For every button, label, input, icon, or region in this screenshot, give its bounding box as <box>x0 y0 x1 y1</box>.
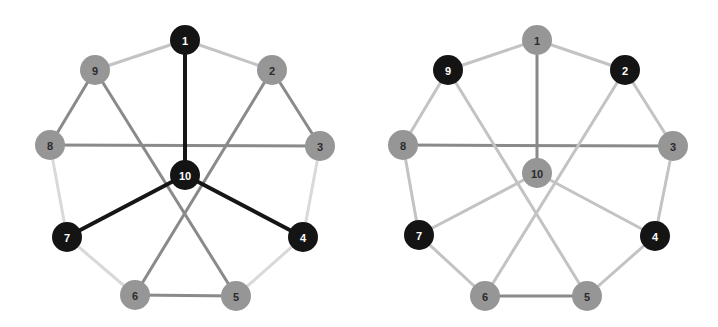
left-graph-panel: 12345678910 <box>0 0 359 327</box>
node-circle-10[interactable] <box>170 160 200 190</box>
graph-node-2[interactable]: 2 <box>257 55 287 85</box>
node-circle-2[interactable] <box>610 55 640 85</box>
graph-node-10[interactable]: 10 <box>170 160 200 190</box>
right-graph-canvas: 12345678910 <box>359 0 718 327</box>
node-circle-9[interactable] <box>433 55 463 85</box>
node-circle-5[interactable] <box>572 281 602 311</box>
node-circle-6[interactable] <box>120 280 150 310</box>
graph-node-8[interactable]: 8 <box>388 130 418 160</box>
right-graph-panel: 12345678910 <box>359 0 718 327</box>
graph-edge-10-7 <box>419 173 537 235</box>
graph-node-9[interactable]: 9 <box>80 55 110 85</box>
graph-node-4[interactable]: 4 <box>288 222 318 252</box>
graph-node-5[interactable]: 5 <box>221 281 251 311</box>
node-circle-5[interactable] <box>221 281 251 311</box>
graph-node-5[interactable]: 5 <box>572 281 602 311</box>
graph-node-4[interactable]: 4 <box>640 221 670 251</box>
node-circle-8[interactable] <box>388 130 418 160</box>
node-circle-1[interactable] <box>170 25 200 55</box>
node-circle-4[interactable] <box>640 221 670 251</box>
graph-edge-10-4 <box>185 175 303 237</box>
node-circle-9[interactable] <box>80 55 110 85</box>
node-circle-6[interactable] <box>470 281 500 311</box>
node-circle-7[interactable] <box>52 222 82 252</box>
graph-node-7[interactable]: 7 <box>52 222 82 252</box>
node-circle-10[interactable] <box>522 158 552 188</box>
graph-figure: 12345678910 12345678910 <box>0 0 718 327</box>
graph-node-10[interactable]: 10 <box>522 158 552 188</box>
graph-node-3[interactable]: 3 <box>658 131 688 161</box>
graph-node-1[interactable]: 1 <box>170 25 200 55</box>
node-circle-1[interactable] <box>522 25 552 55</box>
node-circle-7[interactable] <box>404 220 434 250</box>
graph-node-6[interactable]: 6 <box>120 280 150 310</box>
node-circle-2[interactable] <box>257 55 287 85</box>
node-circle-3[interactable] <box>658 131 688 161</box>
graph-node-2[interactable]: 2 <box>610 55 640 85</box>
graph-node-6[interactable]: 6 <box>470 281 500 311</box>
graph-node-7[interactable]: 7 <box>404 220 434 250</box>
graph-node-1[interactable]: 1 <box>522 25 552 55</box>
graph-edge-5-6 <box>135 295 236 296</box>
graph-node-3[interactable]: 3 <box>305 131 335 161</box>
graph-node-8[interactable]: 8 <box>35 130 65 160</box>
node-circle-4[interactable] <box>288 222 318 252</box>
node-circle-3[interactable] <box>305 131 335 161</box>
graph-edge-10-7 <box>67 175 185 237</box>
graph-node-9[interactable]: 9 <box>433 55 463 85</box>
node-circle-8[interactable] <box>35 130 65 160</box>
left-graph-canvas: 12345678910 <box>0 0 359 327</box>
graph-edge-10-4 <box>537 173 655 236</box>
